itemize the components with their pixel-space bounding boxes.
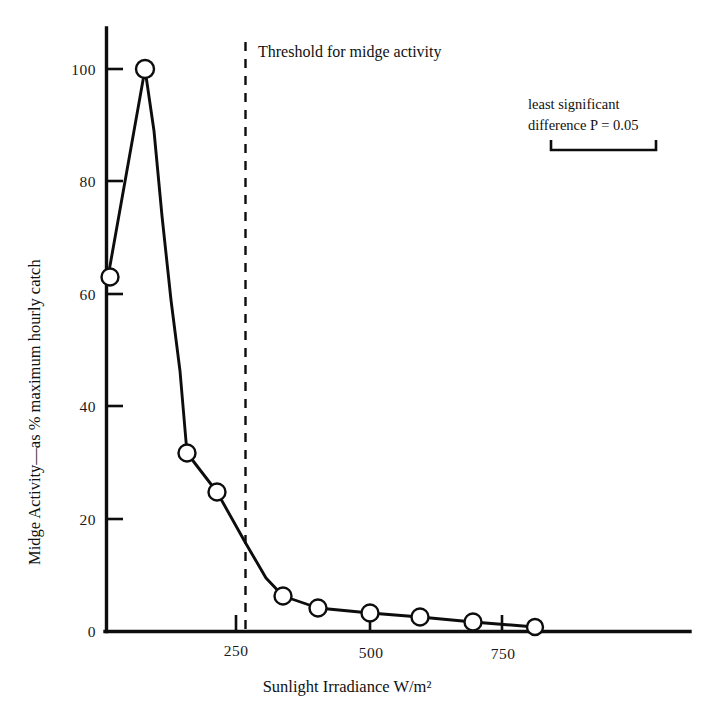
data-point-marker xyxy=(465,614,482,631)
data-point-marker xyxy=(136,60,154,78)
chart-svg: Midge Activity—as % maximum hourly catch… xyxy=(0,0,703,719)
data-point-marker xyxy=(275,588,292,605)
data-point-markers xyxy=(102,60,544,635)
data-point-marker xyxy=(412,609,429,626)
y-tick-label-60: 60 xyxy=(80,286,97,303)
lsd-label-line2: difference P = 0.05 xyxy=(528,117,638,133)
y-tick-label-40: 40 xyxy=(80,398,97,415)
data-point-marker xyxy=(310,600,327,617)
x-axis-title: Sunlight Irradiance W/m² xyxy=(263,677,432,696)
y-tick-label-80: 80 xyxy=(80,173,97,190)
lsd-error-bar xyxy=(551,140,656,150)
data-point-marker xyxy=(209,484,226,501)
data-point-marker xyxy=(527,619,543,635)
x-tick-label-750: 750 xyxy=(491,645,516,662)
data-point-marker xyxy=(362,605,379,622)
x-tick-label-500: 500 xyxy=(359,644,384,661)
y-tick-label-20: 20 xyxy=(80,511,97,528)
y-tick-label-100: 100 xyxy=(71,61,96,78)
data-point-marker xyxy=(179,445,196,462)
data-series-line xyxy=(108,69,535,627)
y-axis-ticks xyxy=(107,69,123,519)
x-tick-label-250: 250 xyxy=(224,642,249,659)
chart-figure: Midge Activity—as % maximum hourly catch… xyxy=(0,0,703,719)
y-tick-label-0: 0 xyxy=(88,623,96,640)
y-axis-title: Midge Activity—as % maximum hourly catch xyxy=(25,259,44,565)
data-point-marker xyxy=(102,269,119,286)
lsd-label-line1: least significant xyxy=(528,96,619,112)
threshold-label: Threshold for midge activity xyxy=(258,43,442,61)
